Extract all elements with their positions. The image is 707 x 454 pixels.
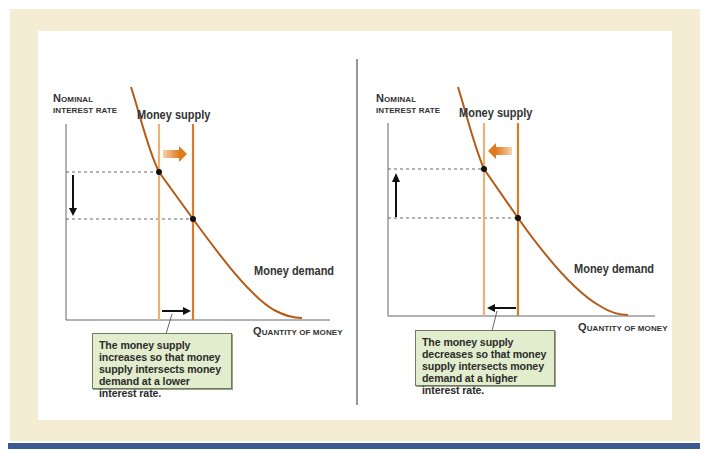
left-x-axis-title: QUANTITY OF MONEY [253,325,343,337]
right-money-demand-label: Money demand [574,262,654,276]
left-quantity-arrow-icon [162,307,191,315]
left-initial-equilibrium [156,169,162,175]
right-chart [388,87,655,331]
right-new-equilibrium [481,166,487,172]
right-quantity-arrow-icon [487,304,516,312]
right-shift-left-arrow-icon [488,143,512,159]
right-x-axis-title: QUANTITY OF MONEY [578,321,668,333]
right-axes [388,123,655,316]
left-chart [66,87,330,334]
right-initial-equilibrium [515,215,521,221]
left-callout-leader [166,314,172,334]
left-callout: The money supply increases so that money… [92,333,232,389]
right-callout: The money supply decreases so that money… [415,330,555,386]
left-shift-right-arrow-icon [163,146,187,162]
right-y-axis-title: NOMINAL INTEREST RATE [376,92,440,118]
right-money-supply-label: Money supply [459,106,532,120]
left-axes [66,124,330,320]
left-rate-down-arrow-icon [69,175,77,216]
left-y-axis-title: NOMINAL INTEREST RATE [53,92,117,118]
right-rate-up-arrow-icon [392,173,400,217]
left-new-equilibrium [190,216,196,222]
right-callout-leader [492,311,497,331]
left-money-supply-label: Money supply [137,108,210,122]
left-money-demand-label: Money demand [254,264,334,278]
